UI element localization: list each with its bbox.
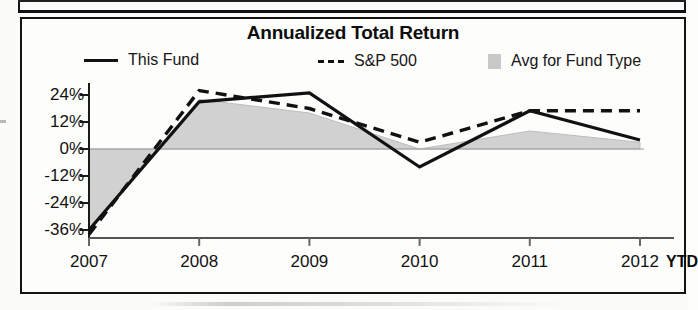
- upper-panel-edge-cap: [18, 0, 686, 2]
- y-axis-tick-label: -24%: [22, 193, 84, 213]
- scan-smudge-artifact: [150, 302, 570, 306]
- chart-panel: Annualized Total Return This Fund S&P 50…: [20, 17, 686, 294]
- y-axis-tick-label: 0%: [22, 139, 84, 159]
- ytd-annotation: YTD: [666, 253, 698, 271]
- x-axis-tick-label: 2009: [290, 252, 328, 272]
- scan-edge-artifact: [0, 120, 6, 123]
- plot-area: 24%12%0%-12%-24%-36% 2007200820092010201…: [22, 19, 688, 296]
- x-axis-tick-label: 2011: [512, 252, 549, 272]
- y-axis-tick-label: -12%: [22, 166, 84, 186]
- chart-svg: [22, 19, 688, 296]
- y-axis-tick-label: 24%: [22, 85, 84, 105]
- x-axis-tick-label: 2010: [401, 252, 439, 272]
- x-axis-tick-label: 2008: [180, 252, 218, 272]
- y-axis-tick-label: -36%: [22, 220, 84, 240]
- y-axis-tick-label: 12%: [22, 112, 84, 132]
- x-axis-tick-label: 2012: [621, 252, 659, 272]
- x-axis-tick-label: 2007: [70, 252, 108, 272]
